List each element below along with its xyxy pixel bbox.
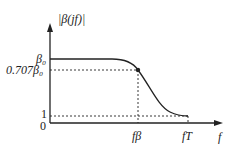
response-curve [50, 59, 188, 116]
fbeta-point [136, 68, 140, 72]
y-axis-label: |β(jf)| [58, 13, 85, 25]
y-axis-arrow-icon [47, 23, 53, 32]
y-tick-0707beta0: 0.707β₀ [6, 64, 43, 76]
x-tick-fbeta: fβ [132, 130, 141, 142]
x-tick-ft: fT [182, 130, 192, 142]
x-axis-label: f [218, 131, 221, 143]
beta-frequency-diagram: |β(jf)| β₀ 0.707β₀ 1 0 fβ fT f [0, 0, 239, 149]
x-axis-arrow-icon [214, 120, 223, 126]
y-tick-0: 0 [40, 120, 46, 132]
